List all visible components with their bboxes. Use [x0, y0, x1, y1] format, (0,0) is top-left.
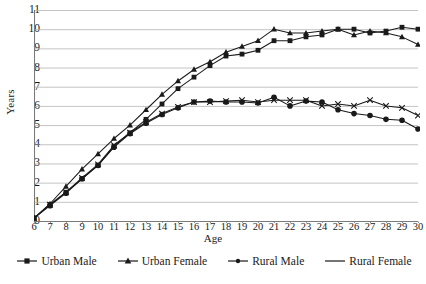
- legend-marker-triangle-icon: [115, 255, 141, 267]
- series-line-rural-female: [34, 100, 418, 218]
- marker-square: [416, 27, 420, 32]
- legend-item: Rural Male: [225, 255, 304, 267]
- marker-triangle: [175, 78, 181, 83]
- marker-square: [288, 38, 293, 43]
- legend-label: Rural Male: [252, 255, 304, 267]
- marker-square: [176, 86, 181, 91]
- marker-circle: [207, 98, 213, 104]
- marker-square: [400, 25, 405, 30]
- marker-cross: [415, 113, 420, 119]
- marker-cross: [367, 97, 373, 103]
- x-axis-title: Age: [0, 232, 426, 244]
- marker-triangle: [255, 38, 261, 43]
- marker-triangle: [191, 66, 197, 71]
- x-tick-label: 30: [408, 222, 426, 233]
- marker-square: [192, 75, 197, 80]
- marker-circle: [255, 100, 261, 106]
- legend-marker-square-icon: [14, 255, 40, 267]
- marker-square: [352, 27, 357, 32]
- chart-legend: Urban MaleUrban FemaleRural MaleRural Fe…: [0, 255, 426, 267]
- legend-marker-line-icon: [322, 255, 348, 267]
- marker-circle: [367, 113, 373, 119]
- marker-square: [240, 52, 245, 57]
- marker-circle: [415, 126, 420, 132]
- marker-triangle: [271, 26, 277, 31]
- legend-label: Urban Male: [41, 255, 96, 267]
- legend-item: Rural Female: [322, 255, 411, 267]
- marker-circle: [383, 117, 389, 123]
- legend-label: Rural Female: [349, 255, 411, 267]
- series-line-rural-male: [34, 97, 418, 218]
- line-chart: Years 01234567891011 6789101112131415161…: [0, 0, 426, 284]
- marker-square: [272, 38, 277, 43]
- plot-area: [34, 10, 418, 221]
- marker-square: [256, 48, 261, 53]
- marker-triangle: [415, 41, 420, 46]
- marker-circle: [335, 107, 341, 113]
- marker-circle: [351, 111, 357, 117]
- legend-label: Urban Female: [142, 255, 207, 267]
- marker-circle: [287, 103, 293, 109]
- plot-svg: [34, 10, 420, 223]
- marker-triangle: [207, 59, 213, 64]
- legend-marker-circle-icon: [225, 255, 251, 267]
- marker-circle: [271, 94, 277, 100]
- marker-circle: [399, 117, 405, 123]
- marker-square: [160, 102, 165, 107]
- legend-item: Urban Male: [14, 255, 96, 267]
- marker-circle: [223, 99, 229, 105]
- legend-item: Urban Female: [115, 255, 207, 267]
